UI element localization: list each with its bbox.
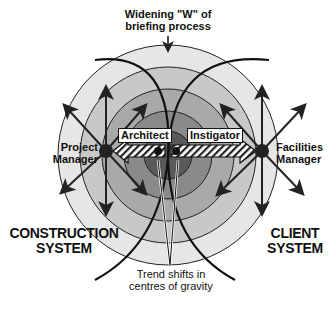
instigator-tag: Instigator	[187, 128, 243, 143]
top-label-line1: Widening "W" of	[112, 9, 224, 21]
client-system-label: CLIENT SYSTEM	[262, 226, 328, 255]
centre-dot-right	[172, 147, 180, 155]
top-label: Widening "W" of briefing process	[112, 9, 224, 32]
trend-shift-label: Trend shifts in centres of gravity	[118, 269, 224, 292]
project-manager-node	[99, 144, 113, 158]
facilities-manager-label: Facilities Manager	[276, 142, 323, 165]
architect-tag: Architect	[118, 128, 172, 143]
project-manager-label: Project Manager	[50, 142, 98, 165]
top-label-line2: briefing process	[112, 21, 224, 33]
centre-dot-left	[154, 147, 162, 155]
construction-system-label: CONSTRUCTION SYSTEM	[8, 226, 120, 255]
facilities-manager-node	[255, 144, 269, 158]
